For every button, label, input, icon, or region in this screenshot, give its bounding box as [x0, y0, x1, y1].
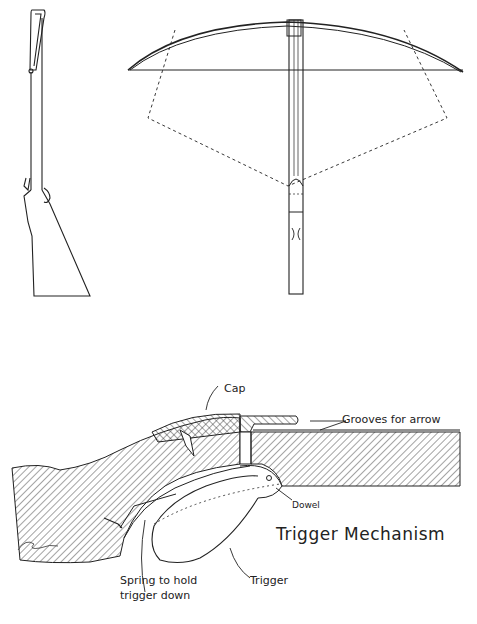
label-spring-line1: Spring to hold — [120, 574, 197, 587]
label-spring-line2: trigger down — [120, 589, 190, 602]
label-trigger: Trigger — [249, 574, 288, 587]
label-dowel: Dowel — [292, 500, 320, 510]
figure-title: Trigger Mechanism — [275, 524, 445, 544]
top-view-crossbow — [128, 20, 463, 294]
diagram-canvas: Cap Grooves for arrow Dowel Trigger Mech… — [0, 0, 477, 624]
side-view-crossbow — [24, 10, 90, 296]
label-cap: Cap — [224, 382, 245, 395]
label-grooves: Grooves for arrow — [342, 413, 440, 426]
